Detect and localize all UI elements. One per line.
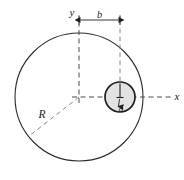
diagram-canvas: y x b R a xyxy=(0,0,184,180)
figure-container: y x b R a xyxy=(0,0,184,180)
label-R-radius: R xyxy=(37,108,45,120)
label-b-dimension: b xyxy=(97,9,102,20)
label-x-axis: x xyxy=(174,90,180,102)
label-y-axis: y xyxy=(69,6,75,18)
label-a-radius: a xyxy=(119,104,124,114)
